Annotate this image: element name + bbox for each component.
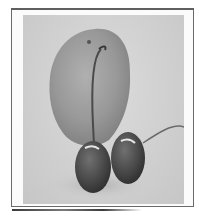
frame-bottom-line	[12, 209, 142, 211]
fruit-photo	[23, 15, 184, 204]
lemon-tip	[87, 40, 91, 44]
lemon	[49, 29, 130, 146]
cherry-left	[75, 141, 111, 193]
cherry-stem-right	[143, 126, 184, 143]
